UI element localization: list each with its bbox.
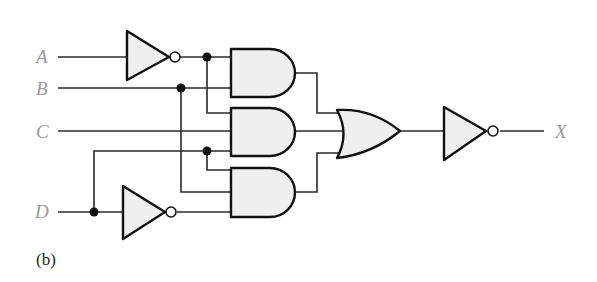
wire-and-to-or bbox=[295, 73, 346, 192]
wire-not-a-out bbox=[180, 57, 231, 113]
not-gate-output bbox=[444, 107, 498, 160]
input-label-d: D bbox=[35, 202, 49, 221]
and-gate-3 bbox=[231, 168, 295, 217]
junction-dot bbox=[177, 84, 186, 93]
and-gate-1 bbox=[231, 49, 295, 97]
input-label-c: C bbox=[36, 122, 49, 141]
wire-b bbox=[58, 88, 231, 192]
junction-dot bbox=[203, 53, 212, 62]
and-gate-2 bbox=[231, 108, 295, 156]
input-label-a: A bbox=[36, 47, 48, 66]
figure-caption: (b) bbox=[36, 251, 56, 268]
input-label-b: B bbox=[36, 79, 48, 98]
output-label-x: X bbox=[555, 122, 567, 141]
not-gate-d bbox=[123, 186, 176, 239]
logic-circuit-diagram: A B C D X (b) bbox=[0, 0, 597, 282]
not-gate-a bbox=[127, 31, 180, 80]
or-gate bbox=[337, 110, 400, 158]
junction-dot bbox=[203, 147, 212, 156]
junction-dot bbox=[90, 208, 99, 217]
circuit-drawing bbox=[0, 0, 597, 282]
